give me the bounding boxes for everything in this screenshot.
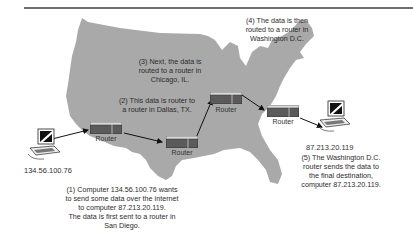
step-1-caption: (1) Computer 134.56.100.76 wants to send… xyxy=(60,185,184,230)
step-1-line-4: The data is first sent to a router in xyxy=(60,212,184,221)
router-label-chicago: Router xyxy=(206,106,246,113)
step-1-line-1: (1) Computer 134.56.100.76 wants xyxy=(60,185,184,194)
router-icon-dallas xyxy=(166,136,198,148)
step-5-line-4: computer 87.213.20.119. xyxy=(298,180,384,189)
step-2-line-2: a router in Dallas, TX. xyxy=(112,105,202,114)
step-2-line-1: (2) This data is router to xyxy=(112,96,202,105)
step-5-line-3: the final destination, xyxy=(298,171,384,180)
step-3-line-2: routed to a router in xyxy=(132,66,208,75)
computer-icon-source xyxy=(26,128,62,162)
step-4-line-2: routed to a router in xyxy=(240,25,314,34)
step-1-line-3: to computer 87.213.20.119. xyxy=(60,203,184,212)
step-5-line-2: router sends the data to xyxy=(298,162,384,171)
step-5-line-1: (5) The Washington D.C. xyxy=(298,153,384,162)
computer-icon-destination xyxy=(316,100,352,134)
step-3-line-3: Chicago, IL. xyxy=(132,75,208,84)
router-icon-washington xyxy=(267,105,299,117)
step-5-caption: (5) The Washington D.C. router sends the… xyxy=(298,153,384,189)
step-4-line-3: Washington D.C. xyxy=(240,34,314,43)
router-label-washington: Router xyxy=(263,118,303,125)
router-icon-chicago xyxy=(210,92,242,104)
step-3-caption: (3) Next, the data is routed to a router… xyxy=(132,57,208,84)
step-4-line-1: (4) The data is then xyxy=(240,16,314,25)
step-1-line-2: to send some data over the internet xyxy=(60,194,184,203)
step-2-caption: (2) This data is router to a router in D… xyxy=(112,96,202,114)
source-ip-label: 134.56.100.76 xyxy=(24,166,72,175)
router-icon-sandiego xyxy=(90,122,122,134)
router-label-sandiego: Router xyxy=(86,135,126,142)
step-4-caption: (4) The data is then routed to a router … xyxy=(240,16,314,43)
step-3-line-1: (3) Next, the data is xyxy=(132,57,208,66)
router-label-dallas: Router xyxy=(162,149,202,156)
destination-ip-label: 87.213.20.119 xyxy=(306,143,353,152)
step-1-line-5: San Diego. xyxy=(60,221,184,230)
